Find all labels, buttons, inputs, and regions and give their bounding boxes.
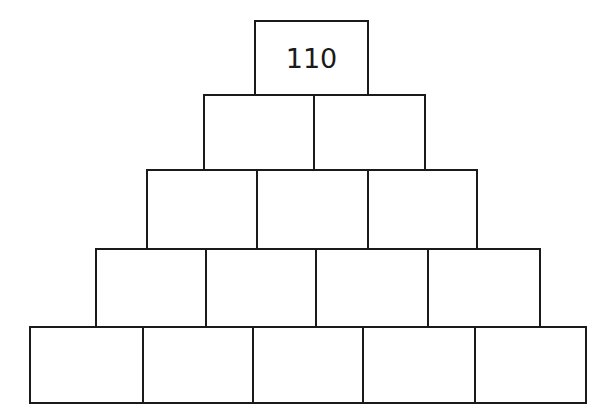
pyramid-cell-row4-col1 — [95, 248, 207, 328]
pyramid-cell-row5-col1 — [29, 326, 144, 404]
pyramid-cell-row3-col1 — [146, 169, 258, 250]
pyramid-cell-row4-col2 — [205, 248, 317, 328]
pyramid-cell-row3-col2 — [256, 169, 369, 250]
pyramid-cell-row5-col3 — [252, 326, 364, 404]
pyramid-cell-row4-col3 — [315, 248, 429, 328]
pyramid-cell-row3-col3 — [367, 169, 478, 250]
pyramid-cell-row4-col4 — [427, 248, 541, 328]
pyramid-cell-row5-col5 — [474, 326, 587, 404]
pyramid-cell-row1-col1: 110 — [254, 20, 369, 96]
pyramid-cell-row2-col1 — [203, 94, 315, 171]
pyramid-cell-row5-col4 — [362, 326, 476, 404]
pyramid-cell-row2-col2 — [313, 94, 426, 171]
pyramid-cell-row5-col2 — [142, 326, 254, 404]
